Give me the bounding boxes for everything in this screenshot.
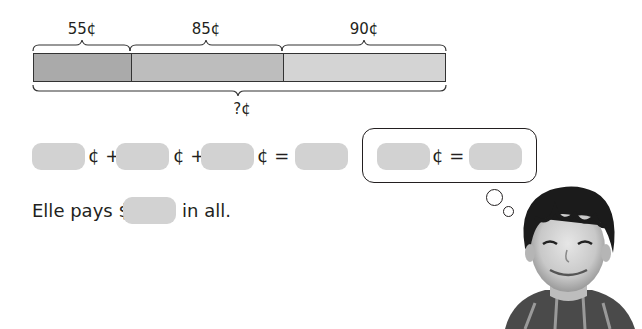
brace-segment-1 (33, 40, 130, 51)
boy-photo (495, 178, 642, 329)
total-label: ?¢ (222, 100, 262, 118)
brace-total (33, 85, 446, 96)
brace-segment-3 (282, 40, 446, 51)
answer-blank-2[interactable] (116, 143, 169, 170)
bar-segment-85 (131, 54, 283, 81)
answer-blank-4[interactable] (295, 143, 348, 170)
sentence-before: Elle pays $ (32, 199, 130, 223)
bar-model (33, 53, 446, 82)
bubble-blank-dollars[interactable] (469, 143, 522, 170)
answer-blank-total[interactable] (123, 197, 176, 224)
answer-blank-3[interactable] (201, 143, 254, 170)
sentence-after: in all. (182, 199, 231, 223)
answer-blank-1[interactable] (32, 143, 85, 170)
bubble-blank-cents[interactable] (377, 143, 430, 170)
bar-segment-90 (283, 54, 445, 81)
bar-segment-55 (34, 54, 131, 81)
brace-segment-2 (130, 40, 282, 51)
